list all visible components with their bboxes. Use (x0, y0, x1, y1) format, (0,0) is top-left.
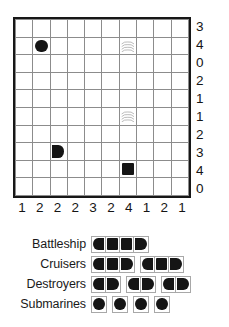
grid-cell-r1-c6[interactable] (102, 20, 119, 38)
grid-cell-r4-c8[interactable] (137, 72, 154, 90)
grid-cell-r5-c7[interactable] (119, 90, 136, 108)
grid-cell-r6-c1[interactable] (16, 107, 33, 125)
fleet-ship-destroyers-3[interactable] (161, 276, 191, 293)
grid-cell-r5-c2[interactable] (33, 90, 50, 108)
grid-cell-r9-c3[interactable] (50, 160, 67, 178)
grid-cell-r2-c8[interactable] (137, 37, 154, 55)
grid-cell-r5-c1[interactable] (16, 90, 33, 108)
grid-cell-r3-c4[interactable] (67, 55, 84, 73)
grid-cell-r4-c5[interactable] (85, 72, 102, 90)
grid-cell-r10-c2[interactable] (33, 178, 50, 196)
grid-cell-r2-c2[interactable] (33, 37, 50, 55)
grid-cell-r2-c1[interactable] (16, 37, 33, 55)
grid-cell-r7-c1[interactable] (16, 125, 33, 143)
grid-cell-r2-c3[interactable] (50, 37, 67, 55)
grid-cell-r3-c2[interactable] (33, 55, 50, 73)
grid-cell-r1-c7[interactable] (119, 20, 136, 38)
grid-cell-r6-c3[interactable] (50, 107, 67, 125)
grid-cell-r1-c10[interactable] (171, 20, 188, 38)
fleet-ship-submarines-2[interactable] (112, 296, 128, 313)
grid-cell-r9-c7[interactable] (119, 160, 136, 178)
fleet-ship-cruisers-1[interactable] (91, 256, 135, 273)
grid-cell-r4-c2[interactable] (33, 72, 50, 90)
grid-cell-r3-c6[interactable] (102, 55, 119, 73)
fleet-ship-cruisers-2[interactable] (140, 256, 184, 273)
grid-cell-r10-c4[interactable] (67, 178, 84, 196)
grid-cell-r2-c5[interactable] (85, 37, 102, 55)
grid-cell-r7-c10[interactable] (171, 125, 188, 143)
grid-cell-r6-c6[interactable] (102, 107, 119, 125)
grid-cell-r8-c2[interactable] (33, 143, 50, 161)
grid-cell-r5-c3[interactable] (50, 90, 67, 108)
grid-cell-r8-c3[interactable] (50, 143, 67, 161)
grid-cell-r5-c10[interactable] (171, 90, 188, 108)
grid-cell-r3-c5[interactable] (85, 55, 102, 73)
grid-cell-r10-c1[interactable] (16, 178, 33, 196)
grid-cell-r9-c9[interactable] (154, 160, 171, 178)
fleet-ship-submarines-4[interactable] (154, 296, 170, 313)
grid-cell-r5-c6[interactable] (102, 90, 119, 108)
grid-cell-r10-c3[interactable] (50, 178, 67, 196)
grid-cell-r10-c5[interactable] (85, 178, 102, 196)
grid-cell-r1-c2[interactable] (33, 20, 50, 38)
grid-cell-r10-c10[interactable] (171, 178, 188, 196)
grid-cell-r3-c1[interactable] (16, 55, 33, 73)
grid-cell-r5-c5[interactable] (85, 90, 102, 108)
grid-cell-r2-c9[interactable] (154, 37, 171, 55)
grid-cell-r8-c6[interactable] (102, 143, 119, 161)
grid-cell-r7-c2[interactable] (33, 125, 50, 143)
grid-cell-r8-c4[interactable] (67, 143, 84, 161)
grid-cell-r6-c5[interactable] (85, 107, 102, 125)
grid-cell-r5-c9[interactable] (154, 90, 171, 108)
grid-cell-r10-c7[interactable] (119, 178, 136, 196)
grid-cell-r2-c6[interactable] (102, 37, 119, 55)
grid-cell-r5-c8[interactable] (137, 90, 154, 108)
grid-cell-r1-c4[interactable] (67, 20, 84, 38)
grid-cell-r10-c8[interactable] (137, 178, 154, 196)
grid-cell-r7-c4[interactable] (67, 125, 84, 143)
grid-cell-r10-c6[interactable] (102, 178, 119, 196)
grid-cell-r6-c2[interactable] (33, 107, 50, 125)
grid-cell-r4-c7[interactable] (119, 72, 136, 90)
grid-cell-r1-c8[interactable] (137, 20, 154, 38)
grid-cell-r2-c4[interactable] (67, 37, 84, 55)
fleet-ship-battleship-1[interactable] (91, 236, 149, 253)
grid-cell-r9-c6[interactable] (102, 160, 119, 178)
grid-cell-r3-c3[interactable] (50, 55, 67, 73)
grid-cell-r8-c8[interactable] (137, 143, 154, 161)
grid-cell-r2-c10[interactable] (171, 37, 188, 55)
grid-cell-r6-c10[interactable] (171, 107, 188, 125)
grid-cell-r9-c8[interactable] (137, 160, 154, 178)
grid-cell-r9-c10[interactable] (171, 160, 188, 178)
grid-cell-r8-c9[interactable] (154, 143, 171, 161)
grid-cell-r4-c6[interactable] (102, 72, 119, 90)
grid-cell-r3-c8[interactable] (137, 55, 154, 73)
grid-cell-r7-c8[interactable] (137, 125, 154, 143)
grid-cell-r9-c1[interactable] (16, 160, 33, 178)
grid-cell-r3-c9[interactable] (154, 55, 171, 73)
grid-cell-r8-c7[interactable] (119, 143, 136, 161)
grid-cell-r6-c7[interactable] (119, 107, 136, 125)
grid-cell-r4-c1[interactable] (16, 72, 33, 90)
fleet-ship-destroyers-1[interactable] (91, 276, 121, 293)
grid-cell-r6-c8[interactable] (137, 107, 154, 125)
grid-cell-r6-c9[interactable] (154, 107, 171, 125)
grid-cell-r7-c7[interactable] (119, 125, 136, 143)
grid-cell-r4-c9[interactable] (154, 72, 171, 90)
grid-cell-r7-c3[interactable] (50, 125, 67, 143)
grid-cell-r1-c5[interactable] (85, 20, 102, 38)
grid-cell-r7-c9[interactable] (154, 125, 171, 143)
grid-cell-r9-c5[interactable] (85, 160, 102, 178)
grid-cell-r8-c1[interactable] (16, 143, 33, 161)
fleet-ship-destroyers-2[interactable] (126, 276, 156, 293)
grid-cell-r4-c10[interactable] (171, 72, 188, 90)
grid-cell-r4-c3[interactable] (50, 72, 67, 90)
battleships-puzzle-grid[interactable] (13, 17, 191, 198)
grid-cell-r1-c9[interactable] (154, 20, 171, 38)
grid-cell-r3-c7[interactable] (119, 55, 136, 73)
grid-cell-r4-c4[interactable] (67, 72, 84, 90)
grid-cell-r7-c5[interactable] (85, 125, 102, 143)
fleet-ship-submarines-1[interactable] (91, 296, 107, 313)
fleet-ship-submarines-3[interactable] (133, 296, 149, 313)
grid-cell-r3-c10[interactable] (171, 55, 188, 73)
